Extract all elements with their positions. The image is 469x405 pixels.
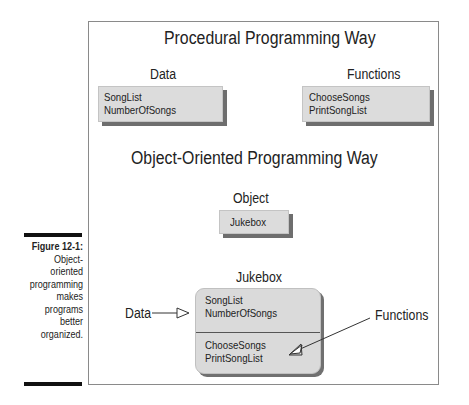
figure-number: Figure 12-1: <box>12 240 83 253</box>
object-box: Jukebox <box>219 210 289 234</box>
functions-box: ChooseSongs PrintSongList <box>302 86 430 122</box>
data-item: SongList <box>104 91 208 104</box>
caption-line: programs <box>12 303 83 316</box>
figure-caption: Figure 12-1: Object- oriented programmin… <box>12 240 83 340</box>
oop-title: Object-Oriented Programming Way <box>131 148 378 169</box>
class-function-item: PrintSongList <box>205 352 266 365</box>
class-title: Jukebox <box>236 269 282 285</box>
data-box: SongList NumberOfSongs <box>98 86 223 122</box>
data-heading: Data <box>150 66 176 82</box>
caption-line: makes <box>12 290 83 303</box>
caption-line: Object- <box>12 253 83 266</box>
class-function-item: ChooseSongs <box>205 339 266 352</box>
data-pointer-label: Data <box>125 305 151 321</box>
caption-line: oriented <box>12 265 83 278</box>
caption-line: organized. <box>12 328 83 341</box>
function-item: PrintSongList <box>309 104 415 117</box>
class-data-item: NumberOfSongs <box>205 307 277 320</box>
caption-bottom-bar <box>24 382 82 386</box>
class-functions-section: ChooseSongs PrintSongList <box>205 339 274 365</box>
object-name: Jukebox <box>230 216 281 229</box>
caption-top-bar <box>24 233 82 237</box>
procedural-title: Procedural Programming Way <box>164 28 376 49</box>
class-data-item: SongList <box>205 294 277 307</box>
data-item: NumberOfSongs <box>104 104 208 117</box>
class-divider <box>196 332 320 333</box>
jukebox-class-box: SongList NumberOfSongs ChooseSongs Print… <box>195 288 321 374</box>
caption-line: better <box>12 315 83 328</box>
caption-line: programming <box>12 278 83 291</box>
class-data-section: SongList NumberOfSongs <box>205 294 287 320</box>
functions-pointer-label: Functions <box>375 307 428 323</box>
function-item: ChooseSongs <box>309 91 415 104</box>
object-heading: Object <box>233 190 269 206</box>
functions-heading: Functions <box>347 66 400 82</box>
